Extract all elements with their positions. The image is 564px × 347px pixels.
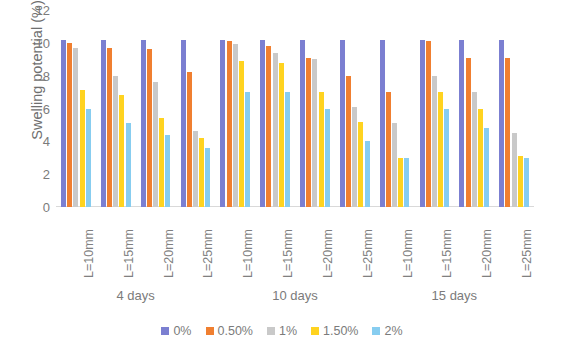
bar-group — [136, 10, 176, 207]
bar-150-L=10mm — [398, 158, 403, 207]
bar-group — [415, 10, 455, 207]
bar-group — [176, 10, 216, 207]
legend-item[interactable]: 1% — [267, 324, 297, 338]
bar-1-L=15mm — [432, 76, 437, 207]
group-label: 15 days — [432, 288, 478, 303]
bar-1-L=15mm — [113, 76, 118, 207]
bar-1-L=25mm — [193, 131, 198, 207]
bar-2-L=25mm — [205, 148, 210, 207]
group-label: 4 days — [117, 288, 155, 303]
bar-050-L=10mm — [67, 43, 72, 207]
chart-legend: 0%0.50%1%1.50%2% — [0, 324, 564, 338]
x-axis-tick-label: L=15mm — [281, 208, 295, 278]
bar-0-L=25mm — [499, 40, 504, 207]
legend-item[interactable]: 2% — [372, 324, 402, 338]
bar-050-L=20mm — [306, 58, 311, 207]
bar-050-L=25mm — [346, 76, 351, 207]
legend-item[interactable]: 0.50% — [206, 324, 253, 338]
bar-1-L=15mm — [273, 53, 278, 207]
bar-2-L=15mm — [126, 123, 131, 207]
bar-050-L=10mm — [227, 41, 232, 207]
x-axis-tick-label: L=20mm — [321, 208, 335, 278]
bar-1-L=25mm — [352, 107, 357, 207]
bar-150-L=20mm — [478, 109, 483, 208]
legend-label: 1% — [279, 324, 297, 338]
bar-1-L=10mm — [392, 123, 397, 207]
bar-1-L=10mm — [233, 44, 238, 207]
bar-150-L=15mm — [438, 92, 443, 207]
legend-swatch-icon — [311, 327, 319, 335]
bar-2-L=15mm — [285, 92, 290, 207]
bar-group — [215, 10, 255, 207]
bar-050-L=10mm — [386, 92, 391, 207]
bar-group — [494, 10, 534, 207]
x-axis-tick-label: L=10mm — [241, 208, 255, 278]
bar-150-L=15mm — [279, 63, 284, 207]
y-axis-tick-10: 10 — [36, 35, 50, 50]
y-axis-tick-0: 0 — [43, 200, 50, 215]
bar-050-L=15mm — [426, 41, 431, 207]
legend-label: 0.50% — [218, 324, 253, 338]
x-axis-tick-label: L=25mm — [201, 208, 215, 278]
legend-label: 2% — [384, 324, 402, 338]
bar-050-L=15mm — [107, 48, 112, 207]
bar-1-L=20mm — [153, 82, 158, 207]
x-axis-tick-label: L=20mm — [480, 208, 494, 278]
legend-swatch-icon — [372, 327, 380, 335]
bar-2-L=25mm — [365, 141, 370, 207]
y-axis-tick-labels: 024681012 — [26, 0, 50, 347]
bar-group — [335, 10, 375, 207]
bar-2-L=20mm — [484, 128, 489, 207]
bar-0-L=25mm — [340, 40, 345, 207]
bar-0-L=10mm — [61, 40, 66, 207]
bar-group — [56, 10, 96, 207]
bar-050-L=20mm — [147, 49, 152, 207]
y-axis-tick-12: 12 — [36, 3, 50, 18]
bar-0-L=20mm — [141, 40, 146, 207]
y-axis-tick-2: 2 — [43, 167, 50, 182]
x-axis-tick-label: L=25mm — [361, 208, 375, 278]
bar-1-L=10mm — [73, 48, 78, 207]
legend-swatch-icon — [267, 327, 275, 335]
x-axis-group-labels: 4 days10 days15 days — [56, 288, 534, 308]
bar-150-L=10mm — [80, 90, 85, 207]
legend-item[interactable]: 0% — [161, 324, 191, 338]
bar-2-L=10mm — [86, 109, 91, 208]
x-axis-tick-label: L=15mm — [440, 208, 454, 278]
bar-group — [295, 10, 335, 207]
bar-150-L=15mm — [119, 95, 124, 207]
swelling-potential-bar-chart: Swelling potential (%) 024681012 L=10mmL… — [0, 0, 564, 347]
bar-0-L=25mm — [181, 40, 186, 207]
bar-1-L=25mm — [512, 133, 517, 207]
bar-150-L=20mm — [319, 92, 324, 207]
x-axis-tick-label: L=20mm — [162, 208, 176, 278]
y-axis-tick-8: 8 — [43, 68, 50, 83]
legend-swatch-icon — [161, 327, 169, 335]
x-axis-tick-label: L=15mm — [122, 208, 136, 278]
legend-label: 1.50% — [323, 324, 358, 338]
legend-item[interactable]: 1.50% — [311, 324, 358, 338]
group-label: 10 days — [272, 288, 318, 303]
bar-group — [96, 10, 136, 207]
bar-2-L=20mm — [325, 109, 330, 208]
bar-0-L=20mm — [300, 40, 305, 207]
bar-0-L=10mm — [380, 40, 385, 207]
y-axis-tick-6: 6 — [43, 101, 50, 116]
bar-2-L=25mm — [524, 158, 529, 207]
bar-1-L=20mm — [312, 59, 317, 207]
bar-group — [255, 10, 295, 207]
x-axis-tick-labels: L=10mmL=15mmL=20mmL=25mmL=10mmL=15mmL=20… — [56, 210, 534, 282]
bar-0-L=15mm — [420, 40, 425, 207]
bar-2-L=20mm — [165, 135, 170, 207]
bar-0-L=10mm — [220, 40, 225, 207]
x-axis-tick-label: L=10mm — [82, 208, 96, 278]
bar-2-L=15mm — [444, 109, 449, 208]
x-axis-tick-label: L=25mm — [520, 208, 534, 278]
bar-150-L=25mm — [518, 156, 523, 207]
bar-050-L=15mm — [266, 46, 271, 207]
bar-050-L=25mm — [187, 72, 192, 207]
bar-150-L=25mm — [199, 138, 204, 207]
bar-group — [454, 10, 494, 207]
bar-050-L=20mm — [466, 58, 471, 207]
bar-group — [375, 10, 415, 207]
